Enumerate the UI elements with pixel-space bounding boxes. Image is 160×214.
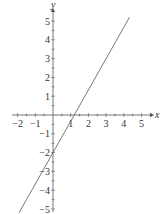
y-tick-label: −4 — [39, 185, 50, 196]
x-tick-label: 2 — [86, 118, 91, 129]
tick-labels: −2−112345−5−4−3−2−112345 — [12, 16, 144, 214]
y-tick-label: 5 — [45, 16, 50, 27]
x-axis-label: x — [154, 109, 160, 120]
axes — [12, 8, 154, 212]
x-tick-label: −2 — [12, 118, 23, 129]
x-tick-label: 5 — [139, 118, 144, 129]
y-tick-label: 1 — [45, 91, 50, 102]
y-axis-label: y — [50, 0, 56, 10]
x-tick-label: 3 — [104, 118, 109, 129]
y-tick-label: 2 — [45, 72, 50, 83]
y-tick-label: 3 — [45, 53, 50, 64]
y-tick-label: −5 — [39, 204, 50, 214]
y-tick-label: 4 — [45, 34, 50, 45]
x-axis-arrow-icon — [150, 113, 154, 117]
y-tick-label: −2 — [39, 147, 50, 158]
x-tick-label: 4 — [121, 118, 126, 129]
y-tick-label: −1 — [39, 128, 50, 139]
x-tick-label: 1 — [68, 118, 73, 129]
line-graph: −2−112345−5−4−3−2−112345 x y — [0, 0, 160, 213]
